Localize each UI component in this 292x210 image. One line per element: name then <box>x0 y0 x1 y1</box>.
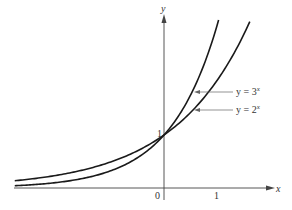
curve-3x-label-exp: x <box>256 85 261 93</box>
curve-2x-label-exp: x <box>256 103 261 111</box>
curve-3-pow-x <box>15 20 219 186</box>
curve-3x-label: y = 3x <box>236 85 261 97</box>
arrowhead-3x-icon <box>194 90 200 94</box>
curve-2-pow-x <box>15 22 250 181</box>
y-axis-arrow-icon <box>162 14 167 23</box>
origin-label: 0 <box>155 190 160 201</box>
y-axis-label: y <box>160 3 166 14</box>
curve-2x-label: y = 2x <box>236 103 261 115</box>
curve-3x-label-base: y = 3 <box>236 86 257 97</box>
x-axis-label: x <box>275 183 281 194</box>
y-tick-1-label: 1 <box>157 128 162 139</box>
curve-2x-label-base: y = 2 <box>236 104 257 115</box>
x-axis-arrow-icon <box>266 186 275 191</box>
exponential-graph: y x 0 1 1 y = 3x y = 2x <box>0 0 292 210</box>
x-tick-1-label: 1 <box>214 190 219 201</box>
